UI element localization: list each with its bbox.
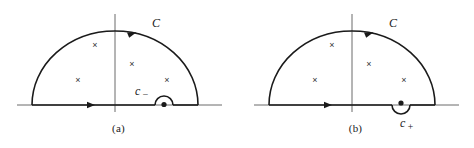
indent-label-a: c (135, 84, 141, 98)
panel-a: C c − × × × × (a) (0, 0, 237, 148)
contour-direction-arrow-a (127, 32, 137, 38)
axis-pole-dot-b (398, 100, 403, 105)
pole-marker: × (129, 59, 134, 69)
contour-label-b: C (389, 16, 398, 30)
pole-marker: × (92, 40, 97, 50)
indent-semicircle-b (392, 105, 410, 114)
contour-label-a: C (152, 16, 161, 30)
axis-direction-arrow-a (87, 102, 95, 108)
panel-caption-a: (a) (0, 122, 237, 134)
pole-marker: × (164, 75, 169, 85)
pole-marker: × (366, 59, 371, 69)
pole-marker: × (312, 75, 317, 85)
panel-b: C c + × × × × (b) (237, 0, 474, 148)
contour-direction-arrow-b (364, 32, 374, 38)
pole-marker: × (401, 75, 406, 85)
pole-marker: × (329, 40, 334, 50)
pole-marker: × (75, 75, 80, 85)
indent-label-subscript-a: − (142, 89, 149, 100)
contour-integration-figure: C c − × × × × (a) C c (0, 0, 474, 148)
panel-caption-b: (b) (237, 122, 474, 134)
axis-pole-dot-a (161, 102, 166, 107)
axis-direction-arrow-b (324, 102, 332, 108)
